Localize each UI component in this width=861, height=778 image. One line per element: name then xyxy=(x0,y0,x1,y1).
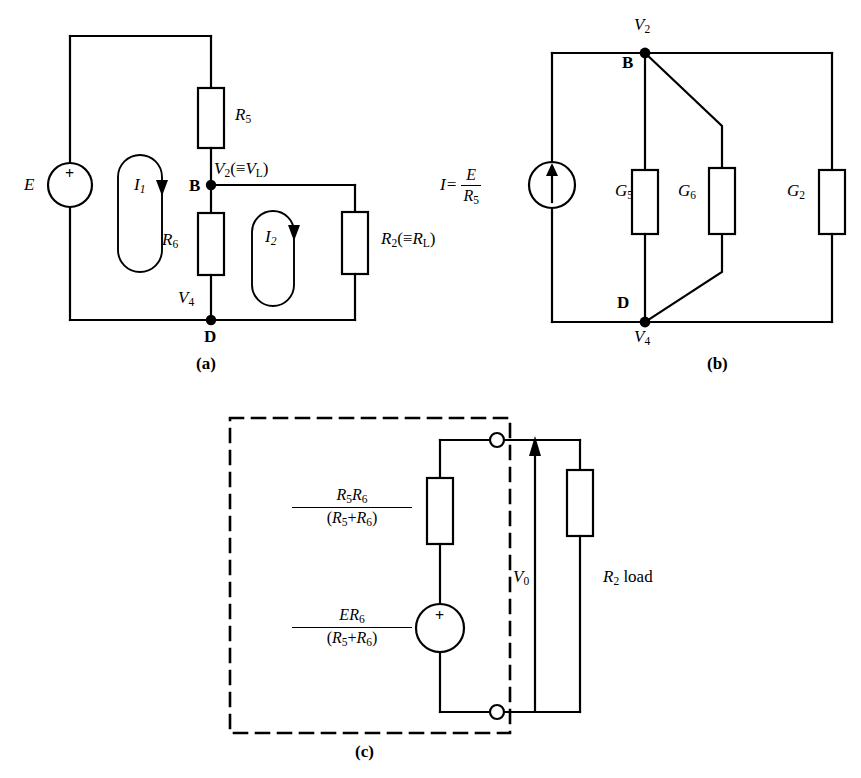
label-load-resistor: R2 load xyxy=(603,568,653,588)
thevenin-source-plus-sign: + xyxy=(435,608,444,624)
label-node-D: D xyxy=(204,328,216,345)
label-V2-node-B: V2(≡VL) xyxy=(214,160,268,180)
node-dot-B xyxy=(206,180,216,190)
figure-root: E + R5 R6 R2(≡RL) V2(≡VL) B V4 D I1 I2 (… xyxy=(0,0,861,778)
node-dot-D-b xyxy=(640,317,651,328)
mesh-loop-I1-arrow xyxy=(156,180,168,196)
mesh-loop-I2 xyxy=(252,211,294,306)
label-mesh-current-I1: I1 xyxy=(134,176,145,196)
label-current-source-value: I= E R5 xyxy=(440,166,481,206)
label-G2: G2 xyxy=(787,182,805,202)
caption-panel-b: (b) xyxy=(707,354,728,374)
label-thevenin-resistance: R5R6 (R5+R6) xyxy=(292,486,412,529)
label-R2: R2(≡RL) xyxy=(381,230,435,250)
label-node-B: B xyxy=(189,177,200,194)
label-R6: R6 xyxy=(162,231,178,251)
mesh-loop-I1 xyxy=(118,155,162,272)
voltage-source-plus-sign: + xyxy=(65,166,74,182)
label-V4: V4 xyxy=(178,289,194,309)
label-node-B-b: B xyxy=(622,54,633,71)
label-G6: G6 xyxy=(678,182,696,202)
thevenin-boundary-box xyxy=(230,418,510,733)
caption-panel-c: (c) xyxy=(355,742,374,762)
label-R5: R5 xyxy=(235,106,251,126)
node-dot-B-b xyxy=(640,48,651,59)
caption-panel-a: (a) xyxy=(196,354,216,374)
circuit-svg xyxy=(0,0,861,778)
mesh-loop-I2-arrow xyxy=(288,225,300,241)
node-dot-D xyxy=(206,315,216,325)
label-G5: G5 xyxy=(615,182,633,202)
label-output-voltage: V0 xyxy=(513,568,529,588)
label-V4-b: V4 xyxy=(634,328,650,348)
label-mesh-current-I2: I2 xyxy=(265,228,276,248)
label-V2-b: V2 xyxy=(634,16,650,36)
label-source-E: E xyxy=(24,176,34,193)
terminal-bottom xyxy=(490,705,504,719)
terminal-top xyxy=(490,433,504,447)
label-node-D-b: D xyxy=(617,294,629,311)
label-thevenin-source-value: ER6 (R5+R6) xyxy=(292,606,412,649)
